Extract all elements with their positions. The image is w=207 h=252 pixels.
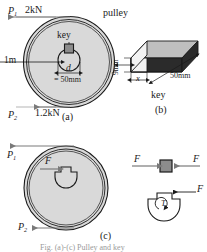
key-height-label: 9mm bbox=[112, 60, 120, 75]
key-length-label: 50mm bbox=[170, 72, 190, 80]
part-b-caption: (b) bbox=[155, 105, 167, 115]
key-width-label: x bbox=[136, 74, 140, 83]
pulley-label: pulley bbox=[103, 8, 128, 18]
force-p1-value-a: 2kN bbox=[25, 5, 42, 15]
key-name-label-b: key bbox=[151, 90, 165, 100]
part-c-pulley-fbd-group bbox=[10, 146, 108, 230]
shaft-diameter-symbol: d bbox=[66, 64, 71, 74]
shaft-diameter-value: = 50mm bbox=[54, 76, 81, 84]
key-label-a: key bbox=[57, 31, 71, 41]
key-cross-section bbox=[65, 44, 74, 53]
pulley-diameter-label: 1m bbox=[4, 56, 16, 66]
force-p1-label-a: P1 bbox=[8, 6, 17, 17]
shaft-force-label: F bbox=[197, 184, 203, 194]
key-force-right-label: F bbox=[193, 154, 199, 164]
part-c-key-fbd-group bbox=[132, 160, 200, 172]
key-force-left-label: F bbox=[134, 154, 140, 164]
force-p2-value-a: 1.2kN bbox=[35, 108, 60, 118]
part-a-caption: (a) bbox=[62, 112, 73, 122]
part-c-shaft-fbd-group bbox=[148, 192, 196, 221]
force-p1-label-c: P1 bbox=[7, 150, 16, 161]
torque-label: T bbox=[161, 199, 166, 208]
force-f-label-c: F bbox=[45, 156, 51, 166]
force-p2-label-a: P2 bbox=[8, 110, 17, 121]
force-p2-label-c: P2 bbox=[18, 222, 27, 233]
figure-caption: Fig. (a)-(c) Pulley and key bbox=[40, 244, 125, 252]
fbd-key-square bbox=[160, 160, 172, 172]
part-c-caption: (c) bbox=[100, 231, 111, 241]
